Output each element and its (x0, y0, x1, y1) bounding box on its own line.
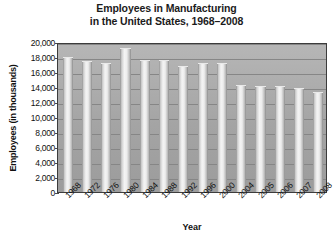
y-axis-tick-label: 18,000 (17, 54, 55, 62)
bar (236, 85, 246, 192)
chart-title: Employees in Manufacturing in the United… (0, 2, 333, 28)
bar (313, 92, 323, 193)
gridline (58, 164, 326, 165)
plot-area (57, 43, 327, 193)
bar (140, 60, 150, 192)
y-axis-tick-label: 12,000 (17, 99, 55, 107)
gridline (58, 104, 326, 105)
y-axis-tick-label: 14,000 (17, 84, 55, 92)
y-axis-tick-labels: 20,00018,00016,00014,00012,00010,0008,00… (15, 43, 55, 193)
gridline (58, 74, 326, 75)
chart-title-line-2: in the United States, 1968–2008 (0, 15, 333, 28)
y-axis-tick-label: 4,000 (17, 159, 55, 167)
bar (294, 88, 304, 192)
x-axis-title: Year (57, 222, 327, 232)
y-axis-tick-label: 20,000 (17, 39, 55, 47)
chart-title-line-1: Employees in Manufacturing (0, 2, 333, 15)
y-axis-tick-label: 8,000 (17, 129, 55, 137)
y-axis-tick-label: 6,000 (17, 144, 55, 152)
bar-chart: Employees in Manufacturing in the United… (0, 0, 333, 237)
bar (159, 60, 169, 192)
bar (198, 63, 208, 192)
gridline (58, 59, 326, 60)
gridline (58, 44, 326, 45)
y-axis-tick-label: 0 (17, 189, 55, 197)
y-axis-tick-label: 10,000 (17, 114, 55, 122)
plot-background (58, 44, 326, 192)
gridline (58, 119, 326, 120)
y-axis-tick-label: 16,000 (17, 69, 55, 77)
bar (101, 63, 111, 192)
bar (120, 48, 130, 192)
gridline (58, 134, 326, 135)
bar (275, 86, 285, 193)
gridline (58, 149, 326, 150)
bar (255, 86, 265, 193)
bar (217, 63, 227, 192)
gridline (58, 89, 326, 90)
bar (63, 57, 73, 192)
y-axis-tick-label: 2,000 (17, 174, 55, 182)
bar (82, 61, 92, 192)
bar (178, 66, 188, 192)
